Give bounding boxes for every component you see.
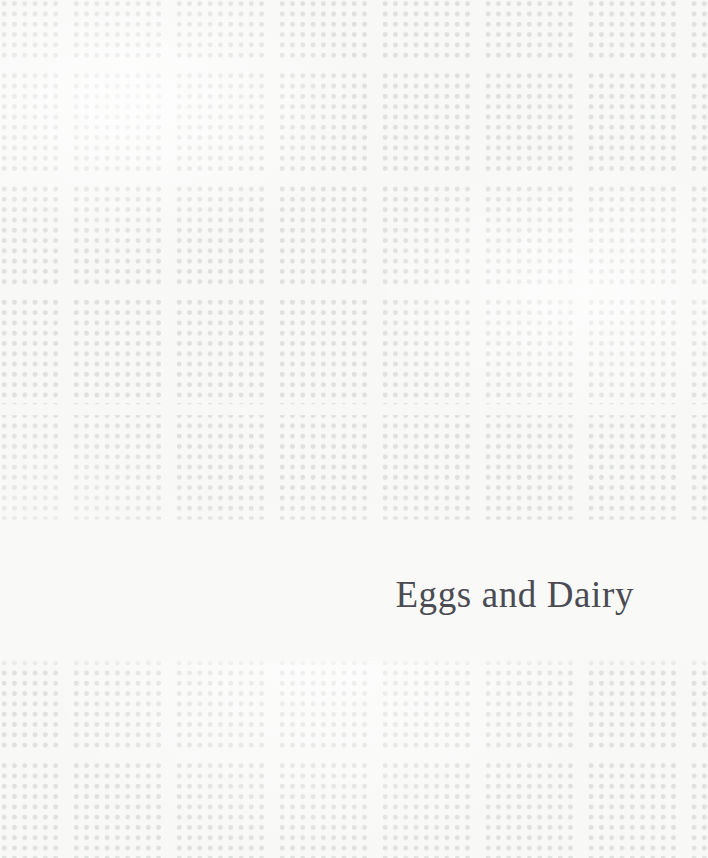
chapter-title-band: Eggs and Dairy [0, 530, 708, 658]
chapter-opener-page: Eggs and Dairy [0, 0, 708, 858]
page-title: Eggs and Dairy [395, 576, 708, 613]
pattern-gutter-overlay [0, 0, 708, 858]
